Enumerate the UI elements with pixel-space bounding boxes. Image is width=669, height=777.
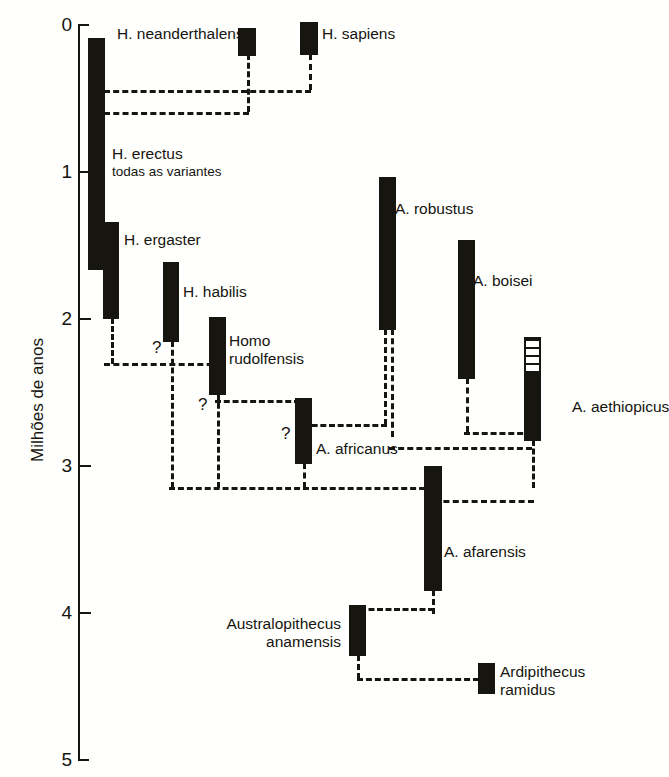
connector-africanus-robust-branch [303,424,387,427]
y-axis-line [78,24,80,761]
connector-neanderthal-stem [247,54,250,112]
bar-a-afarensis [424,466,442,591]
connector-aethiopicus-stem [532,440,535,488]
bar-h-ergaster [103,222,119,319]
y-axis-tick-2 [80,318,91,320]
y-axis-title: Milhões de anos [28,320,48,480]
label-a-africanus: A. africanus [316,440,398,458]
y-axis-tick-3 [80,465,91,467]
connector-ramidus-anamensis [357,678,479,681]
y-axis-label-0: 0 [42,15,72,34]
bar-a-robustus [379,177,396,330]
connector-robustus-stem [384,329,387,425]
connector-africanus-stem [303,463,306,488]
connector-robustus-aethiopicus [389,447,532,450]
y-axis-label-5: 5 [42,750,72,769]
connector-rudolfensis-stem [217,394,220,488]
y-axis-tick-4 [80,612,91,614]
uncertainty-marker-3: ? [281,425,290,442]
label-h-erectus-sub: todas as variantes [112,164,222,180]
connector-anamensis-afarensis [360,608,434,611]
label-a-afarensis: A. afarensis [444,543,526,561]
bar-a-africanus [295,398,312,464]
uncertainty-marker-1: ? [152,339,161,356]
connector-early-homo-branch [104,363,222,366]
label-a-boisei: A. boisei [473,272,532,290]
connector-boisei-stem [466,378,469,432]
y-axis-bottom-cap [78,759,89,761]
label-a-robustus: A. robustus [395,200,473,218]
connector-sapiens-stem [309,54,312,90]
bar-a-boisei [458,240,475,379]
bar-a-aethiopicus [524,372,541,441]
label-h-ergaster: H. ergaster [124,231,201,249]
label-ardipithecus-ramidus-line1: Ardipithecus [500,663,585,681]
label-h-habilis: H. habilis [183,283,247,301]
bar-australopithecus-anamensis [349,605,366,656]
y-axis-label-4: 4 [42,603,72,622]
connector-boisei-aethiopicus [464,432,532,435]
connector-afarensis-main-branch [169,487,434,490]
label-australopithecus-anamensis-line2: anamensis [189,633,341,651]
bar-h-sapiens [300,22,318,55]
label-homo-rudolfensis-line2: rudolfensis [229,350,304,368]
connector-neanderthal-branch [104,112,249,115]
label-a-aethiopicus: A. aethiopicus [572,398,669,416]
bar-h-habilis [163,262,179,342]
uncertainty-marker-2: ? [198,396,207,413]
bar-ardipithecus-ramidus [478,663,495,694]
bar-a-aethiopicus-hatched [524,337,541,373]
connector-anamensis-stem [357,655,360,679]
label-h-sapiens: H. sapiens [322,25,395,43]
connector-sapiens-branch [104,90,311,93]
y-axis-label-1: 1 [42,162,72,181]
label-ardipithecus-ramidus-line2: ramidus [500,681,555,699]
label-h-erectus: H. erectus [112,145,183,163]
bar-homo-rudolfensis [209,317,226,395]
label-h-neanderthalensis: H. neanderthalensis [117,25,255,43]
label-homo-rudolfensis-line1: Homo [229,332,270,350]
connector-rudolfensis-africanus [215,400,300,403]
label-australopithecus-anamensis-line1: Australopithecus [189,615,341,633]
y-axis-top-cap [78,24,89,26]
connector-ergaster-stem [111,318,114,364]
connector-robustus-stem-2 [391,329,394,437]
connector-afarensis-aethiopicus-branch [434,500,534,503]
